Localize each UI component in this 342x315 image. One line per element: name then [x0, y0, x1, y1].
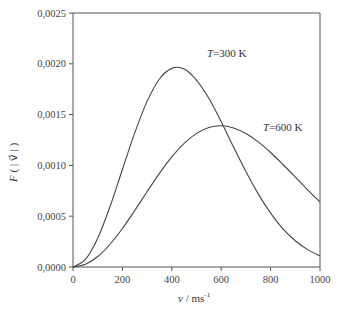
y-tick-label: 0,0010	[37, 160, 66, 171]
y-tick-label: 0,0015	[37, 109, 66, 120]
x-tick-label: 1000	[310, 274, 331, 285]
x-tick-label: 800	[263, 274, 279, 285]
x-tick-label: 400	[164, 274, 180, 285]
label-600k: T=600 K	[263, 121, 303, 133]
y-tick-label: 0,0025	[37, 8, 66, 19]
x-axis-label: v / ms-1	[178, 291, 211, 304]
curve-600k	[73, 126, 320, 267]
x-tick-label: 0	[70, 274, 75, 285]
axes: 0,00000,00050,00100,00150,00200,00250200…	[37, 8, 330, 286]
y-axis-label: F ( | v⃗ | )	[7, 142, 20, 183]
y-tick-label: 0,0020	[37, 58, 66, 69]
y-tick-label: 0,0000	[37, 262, 66, 273]
x-tick-label: 200	[115, 274, 131, 285]
label-300k: T=300 K	[207, 47, 247, 59]
x-tick-label: 600	[213, 274, 229, 285]
curves	[73, 67, 320, 267]
y-tick-label: 0,0005	[37, 211, 66, 222]
chart: 0,00000,00050,00100,00150,00200,00250200…	[0, 0, 342, 315]
curve-300k	[73, 67, 320, 267]
